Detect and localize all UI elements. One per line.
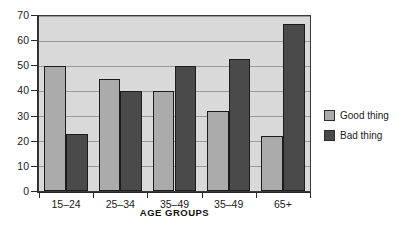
bar-bad-thing: [283, 24, 305, 192]
bar-bad-thing: [229, 59, 251, 192]
x-axis-tick: [39, 192, 40, 198]
bar-good-thing: [261, 136, 283, 191]
bar-chart: 010203040506070 15–2425–3435–4935–4965+ …: [0, 0, 412, 236]
legend-swatch-good: [324, 110, 335, 121]
legend-item: Good thing: [324, 110, 410, 121]
y-axis-tick-label: 70: [3, 10, 29, 20]
x-axis-tick: [202, 192, 203, 198]
y-axis-tick: [31, 191, 37, 192]
y-axis-tick: [31, 40, 37, 41]
legend-label: Good thing: [340, 110, 389, 121]
bar-series-group: [39, 16, 310, 191]
y-axis-tick-label: 30: [3, 111, 29, 121]
bar-good-thing: [153, 91, 175, 191]
bar-bad-thing: [175, 66, 197, 191]
legend-item: Bad thing: [324, 130, 410, 141]
bar-bad-thing: [120, 91, 142, 191]
y-axis-tick: [31, 90, 37, 91]
y-axis-tick-label: 40: [3, 85, 29, 95]
legend-swatch-bad: [324, 130, 335, 141]
legend-label: Bad thing: [340, 130, 382, 141]
x-axis-tick: [310, 192, 311, 198]
y-axis-tick: [31, 116, 37, 117]
bar-good-thing: [99, 79, 121, 192]
x-axis-tick: [147, 192, 148, 198]
y-axis-tick: [31, 166, 37, 167]
chart-legend: Good thingBad thing: [324, 110, 410, 150]
x-axis-title: AGE GROUPS: [38, 207, 311, 218]
y-axis-tick-label: 20: [3, 136, 29, 146]
y-axis-tick: [31, 65, 37, 66]
y-axis: 010203040506070: [0, 0, 38, 236]
y-axis-tick-label: 50: [3, 60, 29, 70]
bar-bad-thing: [66, 134, 88, 192]
y-axis-tick-label: 10: [3, 161, 29, 171]
x-axis-line: [38, 192, 311, 193]
x-axis-tick: [256, 192, 257, 198]
bar-good-thing: [207, 111, 229, 191]
y-axis-tick: [31, 15, 37, 16]
y-axis-tick: [31, 141, 37, 142]
y-axis-tick-label: 60: [3, 35, 29, 45]
y-axis-tick-label: 0: [3, 186, 29, 196]
bar-good-thing: [44, 66, 66, 191]
x-axis-tick: [93, 192, 94, 198]
